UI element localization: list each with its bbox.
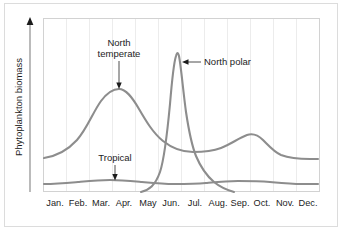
x-tick-apr: Apr. — [116, 198, 132, 208]
x-axis-tick-labels: Jan. Feb. Mar. Apr. May Jun. Jul. Aug. S… — [46, 198, 317, 208]
y-axis-arrow — [27, 17, 34, 192]
figure-card: Phytoplankton biomass — [4, 3, 338, 227]
x-tick-aug: Aug. — [209, 198, 228, 208]
phytoplankton-biomass-chart: Phytoplankton biomass — [5, 4, 339, 228]
x-tick-nov: Nov. — [276, 198, 294, 208]
north-temperate-label-line2: temperate — [98, 48, 141, 59]
x-tick-jan: Jan. — [46, 198, 63, 208]
tropical-label: Tropical — [98, 152, 131, 163]
x-tick-jun: Jun. — [162, 198, 179, 208]
x-tick-sep: Sep. — [231, 198, 250, 208]
x-tick-mar: Mar. — [92, 198, 110, 208]
x-tick-jul: Jul. — [188, 198, 202, 208]
north-temperate-label-line1: North — [107, 37, 130, 48]
x-tick-dec: Dec. — [299, 198, 318, 208]
x-tick-may: May — [139, 198, 157, 208]
x-tick-oct: Oct. — [254, 198, 271, 208]
y-axis-title: Phytoplankton biomass — [13, 58, 24, 156]
chart-canvas: Phytoplankton biomass — [5, 4, 339, 228]
x-tick-feb: Feb. — [69, 198, 87, 208]
north-polar-label: North polar — [204, 56, 251, 67]
